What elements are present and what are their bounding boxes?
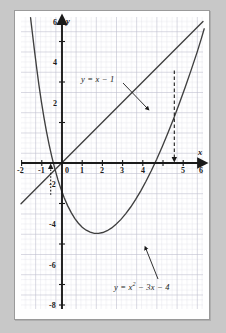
x-tick-label-6: 6 [199,166,203,175]
y-tick-label--6: -6 [49,261,56,270]
coordinate-plane-svg [15,11,209,319]
x-tick-label-0: 0 [65,166,69,175]
parabola-equation-label: y = x2 − 3x − 4 [114,281,170,292]
x-tick-label--2: -2 [17,166,24,175]
x-tick-label--1: -1 [38,166,45,175]
x-tick-label-1: 1 [80,166,84,175]
y-tick-label--8: -8 [49,301,56,310]
y-tick-label-2: 2 [53,99,57,108]
x-axis-name: x [198,147,202,157]
parabola-equation-suffix: − 3x − 4 [136,282,170,292]
x-tick-label-4: 4 [141,166,145,175]
parabola-equation-prefix: y = x [114,282,133,292]
y-tick-label-6: 6 [53,18,57,27]
line-equation-label: y = x − 1 [81,74,115,84]
graph-plot-area [15,11,209,319]
x-tick-label-5: 5 [181,166,185,175]
y-axis-name: y [66,16,70,26]
x-tick-label-2: 2 [100,166,104,175]
figure-card: -2 -1 0 1 2 3 4 5 6 6 4 2 -2 -4 -6 -8 x … [14,10,210,320]
y-tick-label--2: -2 [49,180,56,189]
page-background: -2 -1 0 1 2 3 4 5 6 6 4 2 -2 -4 -6 -8 x … [0,0,226,333]
y-tick-label--4: -4 [49,220,56,229]
x-tick-label-3: 3 [120,166,124,175]
y-tick-label-4: 4 [53,58,57,67]
